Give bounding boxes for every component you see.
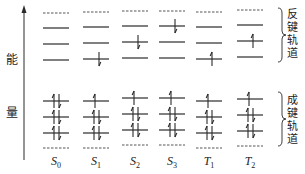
state-label-t2: T2 bbox=[235, 154, 265, 170]
state-label-s3: S3 bbox=[157, 154, 187, 170]
group-label-antibonding: 反键轨道 bbox=[287, 8, 299, 60]
state-label-s2: S2 bbox=[120, 154, 150, 170]
state-label-s1: S1 bbox=[81, 154, 111, 170]
energy-level-diagram: 能 量 S0 S1 S2 S3 T1 T2 反键轨道 成键轨道 bbox=[0, 0, 305, 174]
state-label-s0: S0 bbox=[41, 154, 71, 170]
group-label-bonding: 成键轨道 bbox=[287, 94, 299, 146]
orbital-diagram-canvas bbox=[0, 0, 305, 174]
antibonding-brace-icon bbox=[278, 8, 286, 62]
state-label-t1: T1 bbox=[194, 154, 224, 170]
bonding-brace-icon bbox=[278, 92, 286, 146]
energy-axis-arrow-icon bbox=[22, 5, 27, 13]
axis-label-energy-top: 能 bbox=[6, 50, 18, 67]
axis-label-energy-bottom: 量 bbox=[6, 103, 18, 120]
